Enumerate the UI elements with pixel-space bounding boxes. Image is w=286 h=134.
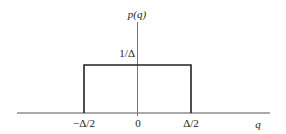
x-axis-label: q (255, 118, 261, 130)
tick-label-half-delta: Δ/2 (183, 117, 199, 129)
y-axis-label: p(q) (127, 8, 147, 21)
uniform-pdf-diagram: p(q) 1/Δ −Δ/2 0 Δ/2 q (0, 0, 286, 134)
tick-label-neg-half-delta: −Δ/2 (73, 117, 95, 129)
height-label: 1/Δ (119, 47, 135, 59)
tick-label-zero: 0 (135, 117, 141, 129)
